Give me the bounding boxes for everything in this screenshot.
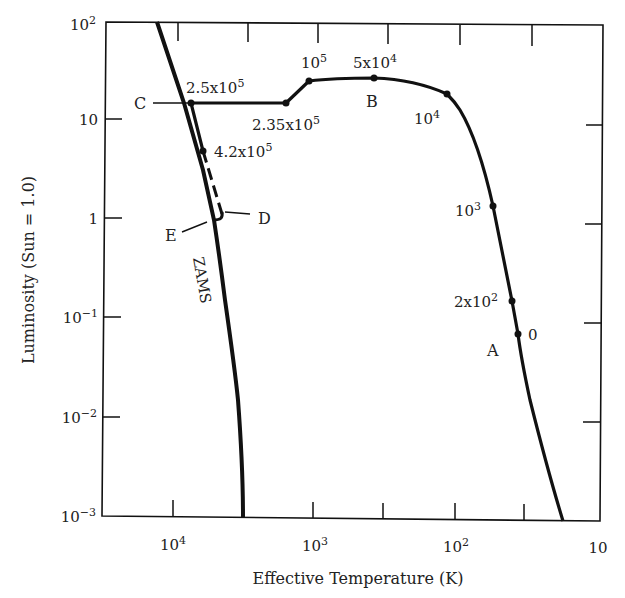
- y-ticks-left: [103, 119, 122, 417]
- hr-diagram: 102 10 1 10−1 10−2 10−3 104 103 102 10 E…: [0, 0, 625, 598]
- x-tick-10: 10: [588, 539, 607, 557]
- y-tick-1e-3: 10−3: [61, 506, 96, 526]
- letter-e: E: [165, 226, 177, 245]
- x-tick-1e4: 104: [160, 534, 186, 554]
- y-axis-title: Luminosity (Sun = 1.0): [19, 176, 38, 364]
- point-age-1e5: [306, 78, 313, 85]
- label-age-1e5: 105: [301, 52, 327, 72]
- y-tick-1e-1: 10−1: [63, 307, 98, 327]
- letter-a: A: [486, 341, 499, 360]
- point-age-2-35e5: [283, 100, 290, 107]
- x-tick-labels: 104 103 102 10: [160, 534, 608, 557]
- x-ticks-top: [178, 23, 532, 46]
- plot-frame: [102, 22, 603, 521]
- label-age-2-5e5: 2.5x105: [186, 77, 244, 97]
- letter-b: B: [366, 92, 378, 111]
- point-age-2e2: [509, 298, 516, 305]
- point-age-0: [515, 331, 522, 338]
- point-labels: 0 2x102 103 104 5x104 105 2.35x105 2.5x1…: [186, 52, 538, 344]
- letter-labels: A B C D E: [134, 92, 499, 360]
- x-tick-1e3: 103: [302, 535, 328, 555]
- y-tick-1e-2: 10−2: [62, 407, 97, 427]
- label-age-5e4: 5x104: [353, 52, 397, 72]
- x-tick-1e2: 102: [443, 536, 469, 556]
- point-age-1e4: [444, 91, 451, 98]
- label-age-2-35e5: 2.35x105: [252, 114, 320, 134]
- y-tick-10: 10: [79, 111, 98, 129]
- y-tick-1: 1: [88, 210, 98, 228]
- y-tick-1e2: 102: [70, 14, 96, 34]
- point-age-5e4: [371, 75, 378, 82]
- y-tick-labels: 102 10 1 10−1 10−2 10−3: [61, 14, 98, 526]
- label-age-0: 0: [528, 326, 538, 344]
- label-age-1e3: 103: [455, 200, 481, 220]
- letter-c: C: [134, 94, 146, 113]
- point-age-4-2e5: [200, 148, 207, 155]
- letter-d: D: [258, 209, 271, 228]
- zams-label: ZAMS: [189, 256, 215, 305]
- y-ticks-right: [583, 125, 603, 422]
- label-age-4-2e5: 4.2x105: [214, 141, 272, 161]
- label-age-1e4: 104: [414, 108, 440, 128]
- label-age-2e2: 2x102: [454, 291, 498, 311]
- x-axis-title: Effective Temperature (K): [253, 569, 464, 588]
- point-age-1e3: [490, 203, 497, 210]
